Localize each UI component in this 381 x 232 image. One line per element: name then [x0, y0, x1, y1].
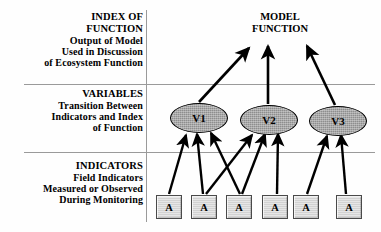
tier-description-line: Measured or Observed	[43, 183, 143, 194]
model-function-title-line: FUNCTION	[215, 23, 345, 35]
indicator-node-6[interactable]: A	[336, 195, 362, 219]
arrow-indicator-to-variable-1	[169, 135, 186, 194]
arrow-indicator-to-variable-2	[197, 134, 203, 194]
variable-node-v3[interactable]: V3	[309, 106, 367, 136]
indicator-node-3[interactable]: A	[226, 195, 252, 219]
tier-description-line: Output of Model	[44, 35, 143, 46]
variable-node-label: V3	[331, 115, 344, 127]
indicator-node-5[interactable]: A	[293, 195, 319, 219]
tier-description-line: During Monitoring	[43, 194, 143, 205]
arrow-variable-to-model-1	[199, 48, 249, 102]
model-function-title: MODEL FUNCTION	[215, 11, 345, 36]
arrow-indicator-to-variable-7	[307, 136, 327, 194]
tier-label-indicators: INDICATORS Field Indicators Measured or …	[43, 160, 143, 205]
arrow-indicator-to-variable-8	[341, 135, 346, 194]
indicator-node-label: A	[200, 202, 208, 213]
tier-heading-line: FUNCTION	[44, 23, 143, 35]
tier-description-line: of Ecosystem Function	[44, 57, 143, 68]
tier-label-index-of-function: INDEX OF FUNCTION Output of Model Used i…	[44, 11, 143, 68]
indicator-node-label: A	[345, 202, 353, 213]
tier-description-line: Transition Between	[52, 100, 143, 111]
tier-heading-line: INDICATORS	[43, 160, 143, 172]
indicator-node-label: A	[302, 202, 310, 213]
variable-node-label: V2	[262, 114, 275, 126]
indicator-node-1[interactable]: A	[156, 195, 182, 219]
indicator-node-label: A	[235, 202, 243, 213]
variable-node-label: V1	[192, 112, 205, 124]
vertical-divider	[146, 10, 147, 222]
arrow-indicator-to-variable-4	[206, 135, 252, 194]
indicator-node-2[interactable]: A	[191, 195, 217, 219]
arrow-variable-to-model-3	[307, 46, 335, 105]
indicator-node-label: A	[271, 202, 279, 213]
diagram-canvas: INDEX OF FUNCTION Output of Model Used i…	[0, 0, 381, 232]
tier-description-line: of Function	[52, 122, 143, 133]
tier-description-line: Indicators and Index	[52, 111, 143, 122]
indicator-node-4[interactable]: A	[262, 195, 288, 219]
variable-node-v1[interactable]: V1	[170, 103, 228, 133]
tier-heading-line: INDEX OF	[44, 11, 143, 23]
variable-node-v2[interactable]: V2	[240, 105, 298, 135]
tier-description-line: Used in Discussion	[44, 46, 143, 57]
model-function-title-line: MODEL	[215, 11, 345, 23]
arrow-indicator-to-variable-3	[211, 133, 240, 194]
arrow-indicator-to-variable-6	[277, 134, 278, 194]
horizontal-divider-upper	[24, 84, 375, 85]
indicator-node-label: A	[165, 202, 173, 213]
tier-description-line: Field Indicators	[43, 172, 143, 183]
horizontal-divider-lower	[24, 152, 375, 153]
tier-heading-line: VARIABLES	[52, 88, 143, 100]
tier-label-variables: VARIABLES Transition Between Indicators …	[52, 88, 143, 133]
arrow-indicator-to-variable-5	[242, 134, 265, 194]
